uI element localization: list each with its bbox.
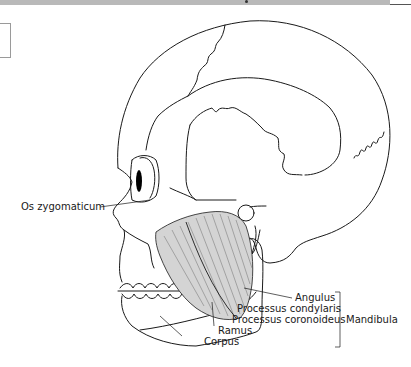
label-mandibula: Mandibula: [346, 314, 398, 326]
leader-os-zygomaticum: [100, 200, 150, 207]
label-os-zygomaticum: Os zygomaticum: [21, 201, 105, 213]
frontal-bone-line: [146, 96, 188, 150]
temporal-line: [188, 78, 341, 175]
skull-illustration: [0, 0, 411, 367]
zygomatic-arch: [170, 188, 266, 207]
maxilla-line: [124, 230, 154, 268]
nasal-profile: [113, 168, 132, 282]
orbit-shadow: [136, 170, 142, 192]
lower-teeth: [122, 294, 182, 299]
lambdoid-suture: [354, 132, 384, 158]
sphenoid-line: [186, 125, 236, 200]
cranium-outline: [118, 21, 390, 263]
orbit-inner: [140, 158, 155, 199]
squamous-suture: [190, 108, 302, 175]
leader-angulus: [244, 288, 292, 298]
label-corpus: Corpus: [204, 336, 239, 348]
